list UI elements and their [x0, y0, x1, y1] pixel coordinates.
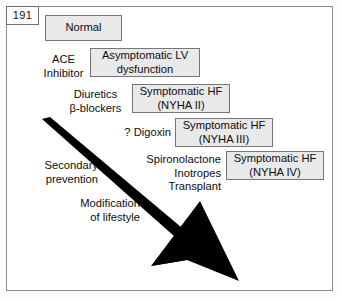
side-note-line1: Secondary	[24, 158, 98, 172]
treatment-ace-inhibitor: ACE Inhibitor	[40, 53, 87, 80]
treatment-digoxin: ? Digoxin	[110, 126, 171, 140]
stage-box-symptomatic-hf-nyha-2[interactable]: Symptomatic HF (NYHA II)	[132, 84, 230, 113]
treatment-line2: Inotropes	[128, 167, 221, 181]
stage-label-line2: (NYHA IV)	[249, 166, 301, 179]
stage-box-symptomatic-hf-nyha-4[interactable]: Symptomatic HF (NYHA IV)	[226, 151, 324, 180]
side-note-secondary-prevention: Secondary prevention	[24, 158, 98, 186]
treatment-line1: Spironolactone	[128, 153, 221, 167]
treatment-line1: ? Digoxin	[110, 126, 171, 140]
stage-label-line2: dysfunction	[117, 63, 174, 76]
side-note-line2: prevention	[24, 172, 98, 186]
treatment-line1: Diuretics	[62, 88, 129, 102]
treatment-line2: β-blockers	[62, 102, 129, 116]
diagram-page: 191 Normal Asymptomatic LV dysfunction S…	[0, 0, 341, 302]
stage-label-line2: (NYHA II)	[157, 99, 204, 112]
stage-label-line1: Normal	[65, 21, 101, 34]
side-note-line2: of lifestyle	[64, 210, 140, 224]
side-note-modification-of-lifestyle: Modification of lifestyle	[64, 196, 140, 224]
stage-label-line1: Symptomatic HF	[140, 85, 223, 98]
treatment-line2: Inhibitor	[40, 67, 87, 81]
page-number-box: 191	[6, 6, 39, 25]
treatment-diuretics-beta-blockers: Diuretics β-blockers	[62, 88, 129, 115]
stage-box-asymptomatic-lv-dysfunction[interactable]: Asymptomatic LV dysfunction	[90, 48, 200, 77]
side-note-line1: Modification	[64, 196, 140, 210]
stage-label-line1: Symptomatic HF	[183, 119, 266, 132]
stage-label-line1: Symptomatic HF	[234, 152, 317, 165]
stage-label-line2: (NYHA III)	[199, 133, 249, 146]
stage-box-symptomatic-hf-nyha-3[interactable]: Symptomatic HF (NYHA III)	[175, 118, 273, 147]
treatment-line3: Transplant	[128, 180, 221, 194]
stage-label-line1: Asymptomatic LV	[102, 49, 188, 62]
treatment-spironolactone-inotropes-transplant: Spironolactone Inotropes Transplant	[128, 153, 221, 194]
treatment-line1: ACE	[40, 53, 87, 67]
stage-box-normal[interactable]: Normal	[45, 15, 122, 41]
